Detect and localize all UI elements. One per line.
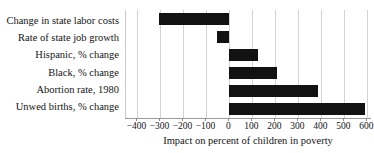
category-label: Black, % change [48,67,122,79]
bar-row [126,100,371,118]
tick-label: 600 [359,121,373,132]
category-label: Unwed births, % change [16,101,122,113]
bar-row [126,46,371,64]
category-label: Abortion rate, 1980 [36,84,122,96]
tick-label: −400 [127,121,147,132]
bar [159,13,229,25]
bar [217,31,230,43]
tick-label: −100 [196,121,216,132]
tick-label: 300 [290,121,304,132]
bar [229,103,365,115]
category-axis-labels: Change in state labor costs Rate of stat… [0,12,122,116]
bar-row [126,10,371,28]
tick-label: 100 [244,121,258,132]
plot-area [125,10,371,118]
bar-row [126,82,371,100]
category-label: Change in state labor costs [6,15,122,27]
bar-row [126,28,371,46]
x-axis-tick-labels: −400−300−200−1000100200300400500600 [125,121,371,133]
bar-series [126,10,371,118]
tick-label: 0 [226,121,231,132]
bar [229,49,258,61]
tick-label: −300 [150,121,170,132]
tick-label: −200 [173,121,193,132]
category-label: Rate of state job growth [18,32,122,44]
tick-label: 500 [336,121,350,132]
x-axis-title: Impact on percent of children in poverty [125,134,371,147]
tick-label: 200 [267,121,281,132]
bar [229,67,276,79]
bar-row [126,64,371,82]
bar [229,85,318,97]
category-label: Hispanic, % change [35,49,122,61]
tick-label: 400 [313,121,327,132]
